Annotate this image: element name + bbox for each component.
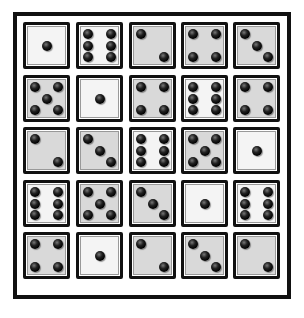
die-r5-c2 [76,232,123,279]
die-r3-c1 [23,127,70,174]
pip-icon [159,134,169,144]
pip-icon [106,210,116,220]
pip-icon [211,52,221,62]
pip-icon [53,187,63,197]
die-r5-c5 [233,232,280,279]
pip-icon [159,52,169,62]
pip-icon [188,239,198,249]
die-r5-c3 [129,232,176,279]
pip-icon [159,262,169,272]
pip-icon [30,262,40,272]
pip-icon [211,94,221,104]
pip-icon [240,105,250,115]
pip-icon [188,82,198,92]
pip-icon [240,210,250,220]
pip-icon [159,82,169,92]
pip-icon [263,52,273,62]
pip-icon [263,105,273,115]
pip-icon [83,29,93,39]
pip-icon [211,262,221,272]
pip-icon [211,134,221,144]
pip-icon [53,157,63,167]
die-r5-c4 [181,232,228,279]
pip-icon [106,157,116,167]
pip-icon [188,52,198,62]
pip-icon [106,41,116,51]
pip-icon [83,134,93,144]
pip-icon [211,157,221,167]
die-r1-c1 [23,22,70,69]
pip-icon [252,41,262,51]
pip-icon [159,157,169,167]
die-r2-c4 [181,75,228,122]
pip-icon [53,82,63,92]
pip-icon [95,94,105,104]
pip-icon [83,41,93,51]
pip-icon [188,29,198,39]
pip-icon [263,82,273,92]
pip-icon [159,105,169,115]
pip-icon [211,82,221,92]
pip-icon [188,94,198,104]
pip-icon [263,199,273,209]
pip-icon [83,210,93,220]
pip-icon [188,134,198,144]
die-r1-c3 [129,22,176,69]
pip-icon [136,187,146,197]
die-r2-c2 [76,75,123,122]
pip-icon [30,105,40,115]
pip-icon [42,94,52,104]
pip-icon [200,251,210,261]
pip-icon [240,239,250,249]
pip-icon [252,146,262,156]
pip-icon [148,199,158,209]
die-r1-c2 [76,22,123,69]
pip-icon [53,105,63,115]
die-r3-c4 [181,127,228,174]
dice-grid-frame [13,12,291,299]
pip-icon [136,146,146,156]
pip-icon [106,187,116,197]
pip-icon [159,210,169,220]
pip-icon [53,199,63,209]
pip-icon [95,251,105,261]
die-r2-c1 [23,75,70,122]
die-r4-c3 [129,180,176,227]
die-r2-c5 [233,75,280,122]
die-r1-c4 [181,22,228,69]
pip-icon [200,146,210,156]
pip-icon [263,210,273,220]
pip-icon [53,262,63,272]
pip-icon [83,187,93,197]
pip-icon [188,105,198,115]
pip-icon [240,82,250,92]
pip-icon [30,210,40,220]
pip-icon [30,239,40,249]
die-r3-c5 [233,127,280,174]
pip-icon [95,199,105,209]
pip-icon [200,199,210,209]
pip-icon [159,146,169,156]
die-r4-c2 [76,180,123,227]
die-r4-c1 [23,180,70,227]
pip-icon [263,262,273,272]
pip-icon [95,146,105,156]
die-r4-c4 [181,180,228,227]
die-r2-c3 [129,75,176,122]
pip-icon [263,187,273,197]
pip-icon [188,157,198,167]
pip-icon [106,52,116,62]
pip-icon [136,157,146,167]
die-r3-c3 [129,127,176,174]
pip-icon [136,105,146,115]
die-r3-c2 [76,127,123,174]
pip-icon [30,134,40,144]
pip-icon [30,82,40,92]
pip-icon [136,239,146,249]
pip-icon [83,52,93,62]
pip-icon [30,187,40,197]
pip-icon [240,29,250,39]
pip-icon [42,41,52,51]
pip-icon [53,239,63,249]
die-r1-c5 [233,22,280,69]
